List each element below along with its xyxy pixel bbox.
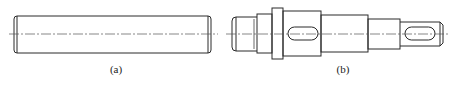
keyway-2 bbox=[405, 27, 435, 40]
caption-b: (b) bbox=[337, 63, 350, 75]
shaft-drawing-b bbox=[232, 8, 443, 59]
caption-a: (a) bbox=[110, 63, 122, 75]
technical-drawing bbox=[0, 0, 455, 87]
pin-drawing-a bbox=[14, 16, 211, 53]
keyway-1 bbox=[288, 27, 318, 40]
